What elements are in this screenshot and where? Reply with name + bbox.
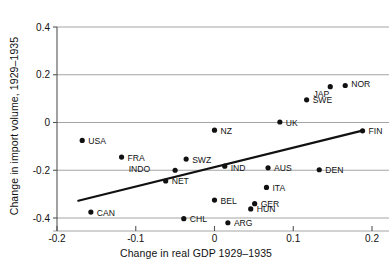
data-point-label-chl: CHL (190, 214, 207, 224)
data-point-label-swz: SWZ (192, 155, 211, 165)
x-axis-tick-label: 0.1 (286, 233, 300, 244)
trend-line (78, 130, 363, 200)
data-point-arg[interactable] (225, 220, 230, 225)
x-axis-tick-label: 0 (212, 233, 218, 244)
data-point-nz[interactable] (212, 128, 217, 133)
data-point-label-ger: GER (261, 199, 280, 209)
x-axis-title: Change in real GDP 1929–1935 (0, 247, 392, 259)
data-point-indo[interactable] (173, 168, 178, 173)
data-point-label-net: NET (172, 176, 190, 186)
data-point-label-ind: IND (231, 163, 246, 173)
data-point-label-nor: NOR (351, 79, 370, 89)
x-axis-tick-label: 0.2 (365, 233, 379, 244)
y-axis-tick-label: -0.2 (33, 165, 51, 176)
data-point-label-nz: NZ (221, 126, 232, 136)
y-axis-tick-label: -0.4 (33, 213, 51, 224)
data-point-uk[interactable] (277, 119, 282, 124)
data-point-label-indo: INDO (129, 164, 151, 174)
y-axis-tick-label: 0.2 (36, 69, 50, 80)
data-point-label-usa: USA (88, 136, 106, 146)
data-point-label-arg: ARG (234, 218, 253, 228)
data-point-label-bel: BEL (221, 196, 237, 206)
data-point-den[interactable] (317, 167, 322, 172)
scatter-chart: -0.4-0.200.20.4-0.2-0.100.10.2USACANFRAN… (0, 0, 392, 275)
x-axis-tick-label: -0.2 (48, 233, 66, 244)
data-point-ger[interactable] (252, 201, 257, 206)
data-point-label-uk: UK (286, 118, 298, 128)
data-point-net[interactable] (163, 178, 168, 183)
data-point-ita[interactable] (264, 185, 269, 190)
data-point-ind[interactable] (222, 164, 227, 169)
data-point-label-aus: AUS (274, 163, 292, 173)
data-point-hun[interactable] (248, 206, 253, 211)
data-point-swz[interactable] (184, 156, 189, 161)
data-point-label-jap: JAP (313, 89, 329, 99)
data-point-usa[interactable] (80, 138, 85, 143)
y-axis-tick-label: 0.4 (36, 22, 50, 33)
data-point-can[interactable] (88, 209, 93, 214)
data-point-label-den: DEN (325, 165, 343, 175)
data-point-label-can: CAN (97, 208, 115, 218)
data-point-label-ita: ITA (272, 183, 285, 193)
y-axis-title: Change in import volume, 1929–1935 (8, 16, 20, 236)
x-axis-tick-label: -0.1 (127, 233, 145, 244)
data-point-bel[interactable] (212, 197, 217, 202)
plot-area: -0.4-0.200.20.4-0.2-0.100.10.2USACANFRAN… (0, 0, 392, 275)
data-point-nor[interactable] (343, 83, 348, 88)
data-point-label-fra: FRA (128, 153, 145, 163)
data-point-fin[interactable] (360, 128, 365, 133)
data-point-fra[interactable] (119, 155, 124, 160)
data-point-swe[interactable] (304, 97, 309, 102)
data-point-chl[interactable] (181, 216, 186, 221)
data-point-label-fin: FIN (369, 126, 383, 136)
y-axis-tick-label: 0 (44, 117, 50, 128)
data-point-aus[interactable] (265, 165, 270, 170)
